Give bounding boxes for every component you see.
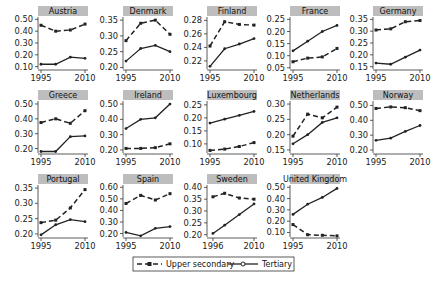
x-tick-label: 1995 <box>115 73 136 83</box>
y-tick-label: 0.50 <box>100 194 118 204</box>
tertiary-point <box>69 135 72 138</box>
upper-secondary-point <box>125 39 128 42</box>
tertiary-point <box>238 43 241 46</box>
tertiary-point <box>139 234 142 237</box>
tertiary-point <box>306 133 309 136</box>
upper-secondary-point <box>336 234 339 237</box>
tertiary-point <box>336 187 339 190</box>
y-tick-label: 0.25 <box>267 14 285 24</box>
y-tick-label: 0.35 <box>100 15 118 25</box>
upper-secondary-point <box>389 27 392 30</box>
tertiary-point <box>69 56 72 59</box>
tertiary-point <box>139 118 142 121</box>
panel-title: Austria <box>49 7 77 16</box>
legend-upper-secondary-label: Upper secondary <box>166 260 234 269</box>
x-tick-label: 1995 <box>365 73 386 83</box>
panel-title: Germany <box>380 7 417 16</box>
tertiary-point <box>292 213 295 216</box>
series-upper-secondary-line <box>376 107 420 111</box>
y-tick-label: 0.25 <box>184 100 202 110</box>
upper-secondary-point <box>404 106 407 109</box>
y-tick-label: 0.20 <box>100 229 118 239</box>
y-tick-label: 0.30 <box>350 26 368 36</box>
tertiary-point <box>389 137 392 140</box>
y-tick-label: 0.30 <box>100 31 118 41</box>
x-tick-label: 1995 <box>30 241 51 251</box>
y-tick-label: 0.20 <box>15 229 33 239</box>
upper-secondary-point <box>84 109 87 112</box>
tertiary-point <box>336 116 339 119</box>
y-tick-label: 0.20 <box>267 216 285 226</box>
x-tick-label: 1995 <box>199 73 220 83</box>
tertiary-point <box>292 142 295 145</box>
panel-ireland: Ireland0.200.300.400.5019952010 <box>100 90 181 167</box>
x-tick-label: 2010 <box>159 73 180 83</box>
y-tick-label: 0.50 <box>267 182 285 192</box>
tertiary-point <box>419 124 422 127</box>
y-tick-label: 0.40 <box>100 114 118 124</box>
y-tick-label: 0.50 <box>15 99 33 109</box>
y-tick-label: 0.40 <box>15 114 33 124</box>
panel-finland: Finland0.220.240.260.2819952010 <box>184 6 265 83</box>
panel-title: Netherlands <box>291 91 340 100</box>
upper-secondary-point <box>321 234 324 237</box>
upper-secondary-point <box>84 23 87 26</box>
y-tick-label: 0.25 <box>350 38 368 48</box>
panel-spain: Spain0.200.300.400.500.6019952010 <box>100 174 181 251</box>
series-tertiary-line <box>293 118 337 144</box>
y-tick-label: 0.25 <box>267 114 285 124</box>
y-tick-label: 0.10 <box>184 139 202 149</box>
upper-secondary-point <box>238 23 241 26</box>
upper-secondary-point <box>375 107 378 110</box>
upper-secondary-point <box>336 106 339 109</box>
y-tick-label: 0.30 <box>15 38 33 48</box>
x-tick-label: 2010 <box>326 241 347 251</box>
tertiary-point <box>292 49 295 52</box>
panel-netherlands: Netherlands0.150.200.250.3019952010 <box>267 90 348 167</box>
upper-secondary-point <box>292 135 295 138</box>
y-tick-label: 0.35 <box>350 14 368 24</box>
upper-secondary-point <box>125 202 128 205</box>
panel-austria: Austria0.100.200.300.400.5019952010 <box>15 6 96 83</box>
upper-secondary-point <box>306 233 309 236</box>
tertiary-point <box>375 62 378 65</box>
upper-secondary-point <box>389 105 392 108</box>
y-tick-label: 0.15 <box>267 145 285 155</box>
series-tertiary-line <box>126 227 170 236</box>
y-tick-label: 0.20 <box>15 144 33 154</box>
series-tertiary-line <box>293 25 337 50</box>
series-tertiary-line <box>376 126 420 141</box>
x-tick-label: 1995 <box>30 157 51 167</box>
y-tick-label: 0.30 <box>267 205 285 215</box>
upper-secondary-point <box>40 24 43 27</box>
series-tertiary-line <box>41 220 85 235</box>
tertiary-point <box>253 37 256 40</box>
upper-secondary-point <box>40 221 43 224</box>
y-tick-label: 0.25 <box>15 214 33 224</box>
legend-tertiary-label: Tertiary <box>261 260 292 269</box>
tertiary-point <box>125 231 128 234</box>
y-tick-label: 0.30 <box>100 130 118 140</box>
upper-secondary-point <box>223 192 226 195</box>
y-tick-label: 0.35 <box>15 183 33 193</box>
upper-secondary-point <box>419 109 422 112</box>
x-tick-label: 1995 <box>282 73 303 83</box>
y-tick-label: 0.25 <box>184 218 202 228</box>
upper-secondary-point <box>321 55 324 58</box>
y-tick-label: 0.35 <box>184 194 202 204</box>
x-tick-label: 2010 <box>326 73 347 83</box>
tertiary-point <box>223 224 226 227</box>
panel-title: Portugal <box>46 175 79 184</box>
upper-secondary-point <box>223 20 226 23</box>
tertiary-point <box>321 30 324 33</box>
upper-secondary-point <box>69 29 72 32</box>
y-tick-label: 0.40 <box>267 194 285 204</box>
upper-secondary-point <box>306 113 309 116</box>
y-tick-label: 0.20 <box>267 27 285 37</box>
upper-secondary-point <box>321 116 324 119</box>
panel-greece: Greece0.200.300.400.5019952010 <box>15 90 96 167</box>
series-upper-secondary-line <box>210 143 254 151</box>
upper-secondary-point <box>139 147 142 150</box>
upper-secondary-point <box>40 121 43 124</box>
tertiary-point <box>336 24 339 27</box>
